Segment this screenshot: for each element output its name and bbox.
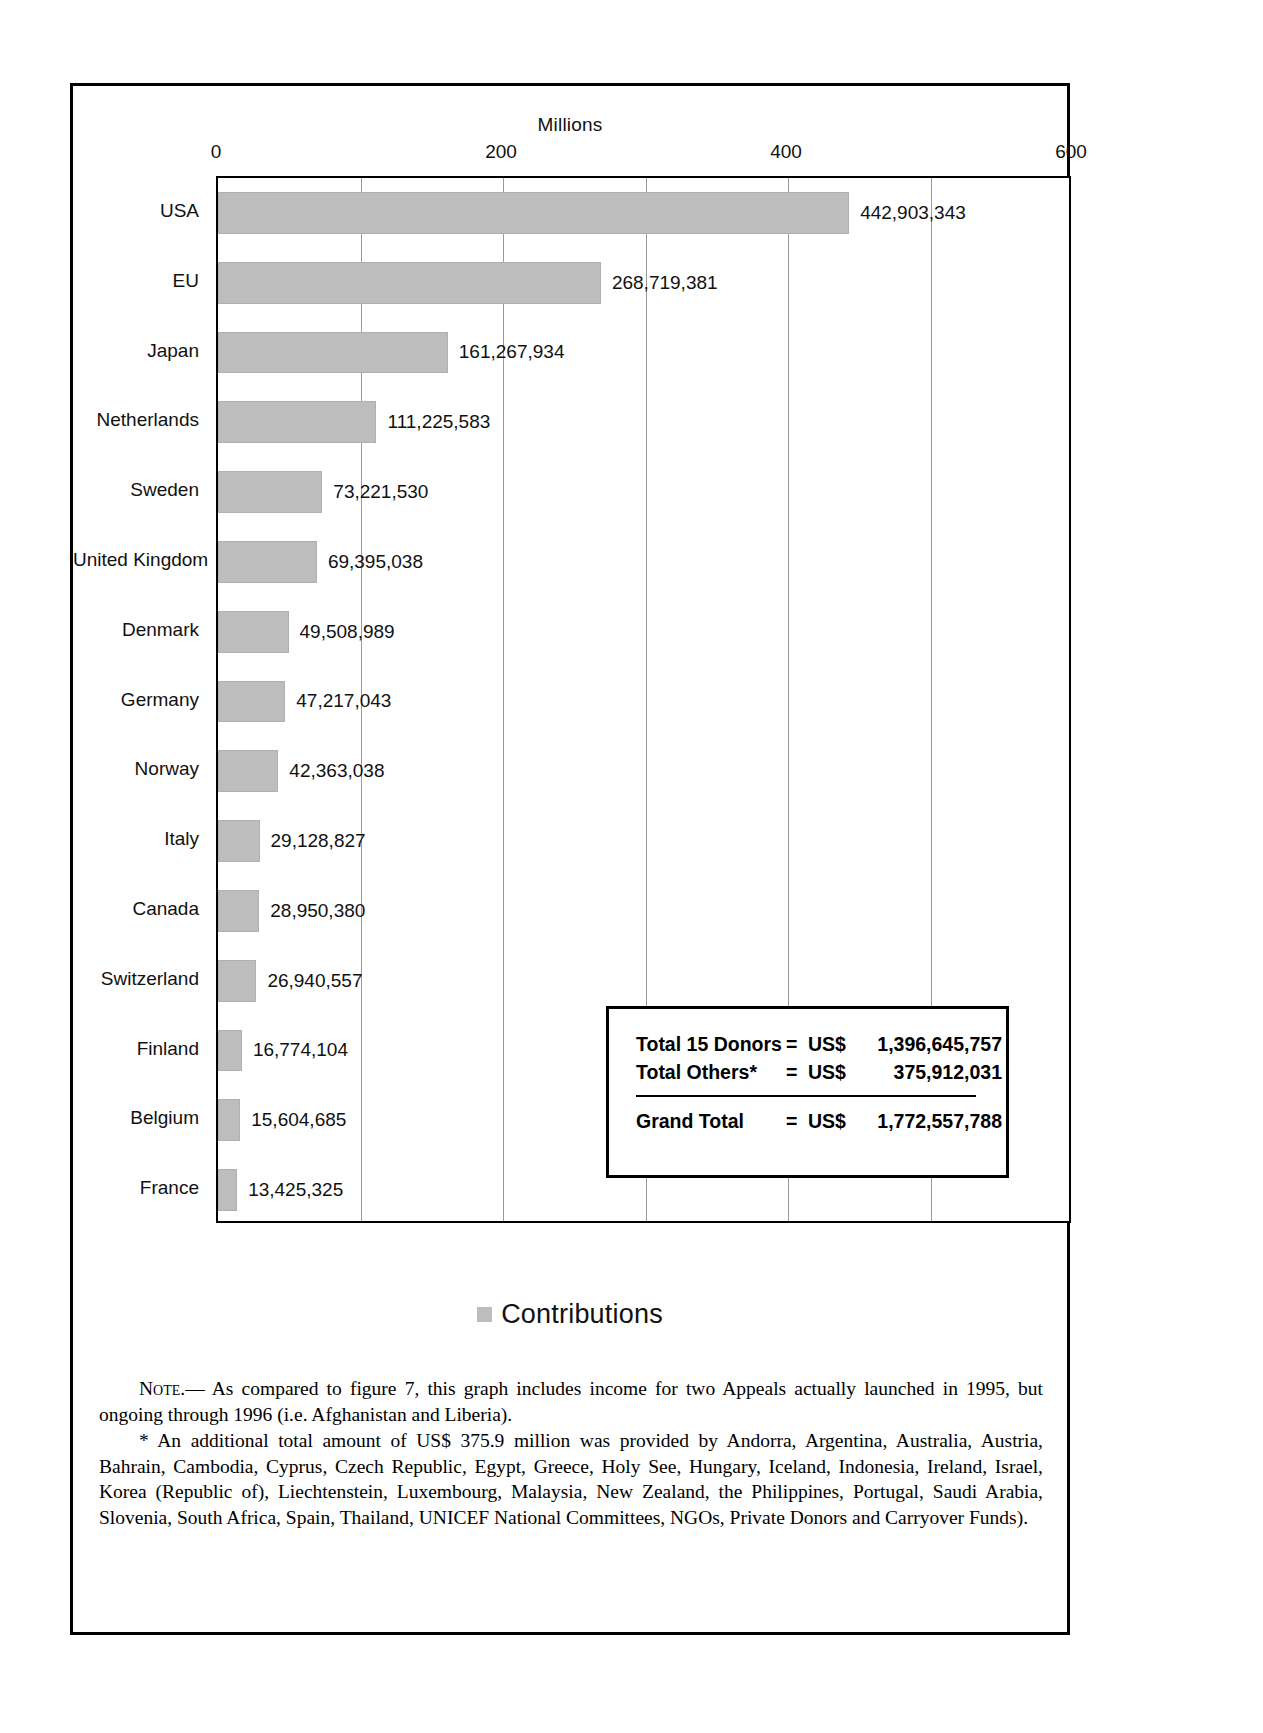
totals-amount: 375,912,031 — [852, 1059, 1002, 1087]
category-label-japan: Japan — [73, 340, 208, 362]
bar-value-label: 73,221,530 — [322, 481, 428, 503]
bar-row: 268,719,381 — [218, 262, 1069, 304]
bar-value-label: 47,217,043 — [285, 690, 391, 712]
grand-total-currency: US$ — [808, 1108, 852, 1136]
category-label-netherlands: Netherlands — [73, 409, 208, 431]
bar — [218, 332, 448, 374]
bar — [218, 890, 259, 932]
x-axis-tick: 600 — [1055, 141, 1087, 163]
bar-value-label: 69,395,038 — [317, 551, 423, 573]
bar-row: 69,395,038 — [218, 541, 1069, 583]
bar — [218, 401, 376, 443]
totals-equals: = — [786, 1031, 808, 1059]
totals-divider — [636, 1095, 976, 1097]
bar — [218, 611, 289, 653]
bar-value-label: 26,940,557 — [256, 970, 362, 992]
category-label-germany: Germany — [73, 689, 208, 711]
category-label-italy: Italy — [73, 828, 208, 850]
bar — [218, 192, 849, 234]
bar-row: 49,508,989 — [218, 611, 1069, 653]
grand-total-row: Grand Total = US$ 1,772,557,788 — [636, 1108, 1006, 1136]
totals-row: Total Others* = US$ 375,912,031 — [636, 1059, 1006, 1087]
note-block: Note.— As compared to figure 7, this gra… — [99, 1376, 1043, 1530]
bar-value-label: 29,128,827 — [260, 830, 366, 852]
bar-value-label: 16,774,104 — [242, 1039, 348, 1061]
category-label-finland: Finland — [73, 1038, 208, 1060]
totals-currency: US$ — [808, 1059, 852, 1087]
bar-row: 73,221,530 — [218, 471, 1069, 513]
x-axis-tick: 200 — [485, 141, 517, 163]
figure-frame: Millions 0200400600 USAEUJapanNetherland… — [70, 83, 1070, 1635]
legend-label: Contributions — [501, 1299, 663, 1330]
bar-value-label: 111,225,583 — [376, 411, 490, 433]
bar-row: 26,940,557 — [218, 960, 1069, 1002]
category-label-switzerland: Switzerland — [73, 968, 208, 990]
x-axis-tick: 400 — [770, 141, 802, 163]
bar-row: 42,363,038 — [218, 750, 1069, 792]
bar-row: 28,950,380 — [218, 890, 1069, 932]
bar — [218, 960, 256, 1002]
bar-value-label: 442,903,343 — [849, 202, 966, 224]
note-paragraph: Note.— As compared to figure 7, this gra… — [99, 1376, 1043, 1427]
bar-row: 111,225,583 — [218, 401, 1069, 443]
bar-value-label: 49,508,989 — [289, 621, 395, 643]
bar — [218, 820, 260, 862]
x-axis-tick-labels: 0200400600 — [73, 141, 1067, 169]
bar-row: 47,217,043 — [218, 681, 1069, 723]
bar-row: 161,267,934 — [218, 332, 1069, 374]
grand-total-label: Grand Total — [636, 1108, 786, 1136]
bar — [218, 471, 322, 513]
grand-total-amount: 1,772,557,788 — [852, 1108, 1002, 1136]
bar — [218, 262, 601, 304]
category-label-norway: Norway — [73, 758, 208, 780]
note-body: .— As compared to figure 7, this graph i… — [99, 1378, 1043, 1425]
bar-value-label: 161,267,934 — [448, 341, 565, 363]
bar — [218, 750, 278, 792]
note-prefix: Note — [139, 1378, 180, 1399]
bar-value-label: 42,363,038 — [278, 760, 384, 782]
totals-summary-box: Total 15 Donors = US$ 1,396,645,757 Tota… — [606, 1006, 1009, 1178]
category-label-united-kingdom: United Kingdom — [73, 549, 208, 571]
bar-chart: Millions 0200400600 USAEUJapanNetherland… — [73, 86, 1067, 1266]
category-label-sweden: Sweden — [73, 479, 208, 501]
x-axis-tick: 0 — [211, 141, 222, 163]
bar-value-label: 268,719,381 — [601, 272, 718, 294]
footnote-paragraph: * An additional total amount of US$ 375.… — [99, 1428, 1043, 1530]
category-label-france: France — [73, 1177, 208, 1199]
grand-total-equals: = — [786, 1108, 808, 1136]
bar-row: 29,128,827 — [218, 820, 1069, 862]
bar-value-label: 28,950,380 — [259, 900, 365, 922]
category-label-belgium: Belgium — [73, 1107, 208, 1129]
totals-label: Total 15 Donors — [636, 1031, 786, 1059]
category-label-denmark: Denmark — [73, 619, 208, 641]
bar — [218, 541, 317, 583]
contributions-swatch-icon — [477, 1307, 492, 1322]
totals-row: Total 15 Donors = US$ 1,396,645,757 — [636, 1031, 1006, 1059]
bar-row: 442,903,343 — [218, 192, 1069, 234]
totals-equals: = — [786, 1059, 808, 1087]
totals-currency: US$ — [808, 1031, 852, 1059]
bar — [218, 1099, 240, 1141]
bar-value-label: 13,425,325 — [237, 1179, 343, 1201]
category-label-canada: Canada — [73, 898, 208, 920]
bar — [218, 1169, 237, 1211]
bar — [218, 681, 285, 723]
category-label-usa: USA — [73, 200, 208, 222]
bar-value-label: 15,604,685 — [240, 1109, 346, 1131]
category-label-eu: EU — [73, 270, 208, 292]
chart-legend: Contributions — [73, 1299, 1067, 1330]
x-axis-title: Millions — [73, 114, 1067, 136]
totals-label: Total Others* — [636, 1059, 786, 1087]
totals-amount: 1,396,645,757 — [852, 1031, 1002, 1059]
category-labels: USAEUJapanNetherlandsSwedenUnited Kingdo… — [73, 176, 208, 1223]
bar — [218, 1030, 242, 1072]
